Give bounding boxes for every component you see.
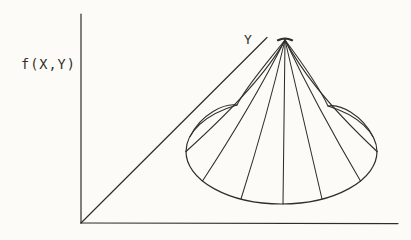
generator-left-inner — [241, 40, 285, 199]
z-axis-label: f(X,Y) — [21, 56, 76, 72]
horizontal-axis-line — [81, 223, 398, 224]
silhouette-left — [186, 40, 285, 152]
axes-group — [81, 14, 398, 224]
generator-center-vertical — [283, 40, 285, 204]
wrap-generator-left — [190, 40, 285, 137]
y-axis-label: Y — [244, 32, 252, 47]
generator-right-inner — [285, 40, 322, 199]
generator-fan-group — [203, 40, 361, 204]
diagonal-y-axis-line — [81, 38, 267, 224]
silhouette-right — [285, 40, 377, 152]
bell-surface-group — [186, 39, 377, 205]
surface-plot-figure: f(X,Y) Y — [0, 0, 411, 240]
generator-right-outer — [285, 40, 361, 181]
surface-plot-svg: f(X,Y) Y — [0, 0, 411, 240]
